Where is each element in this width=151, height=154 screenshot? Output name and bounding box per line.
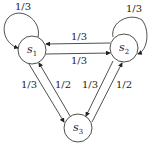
svg-text:1/3: 1/3 xyxy=(126,3,142,14)
svg-text:1/3: 1/3 xyxy=(15,1,31,12)
edge-s1-s2: 1/3 xyxy=(46,53,110,66)
edge-s3-s1: 1/2 xyxy=(39,63,71,116)
svg-text:1/2: 1/2 xyxy=(116,79,132,90)
edge-s1-s3: 1/3 xyxy=(21,64,64,122)
svg-text:1/3: 1/3 xyxy=(21,79,37,90)
svg-text:1/2: 1/2 xyxy=(55,79,71,90)
markov-chain-diagram: s1 s2 s3 1/3 1/3 1/3 1/3 1/3 1/2 1/3 xyxy=(0,0,151,154)
node-s2: s2 xyxy=(110,34,138,62)
svg-text:1/3: 1/3 xyxy=(82,79,98,90)
svg-text:1/3: 1/3 xyxy=(71,55,87,66)
svg-text:1/3: 1/3 xyxy=(71,31,87,42)
edge-s2-s1: 1/3 xyxy=(46,31,110,44)
node-s1: s1 xyxy=(18,36,46,64)
edge-s2-s3: 1/3 xyxy=(82,61,113,116)
edge-s3-s2: 1/2 xyxy=(92,63,132,122)
node-s3: s3 xyxy=(64,114,92,142)
